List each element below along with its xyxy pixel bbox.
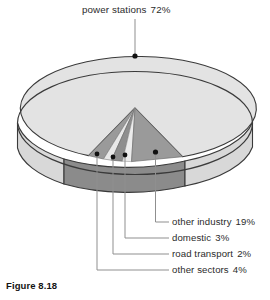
label-other-industry: other industry19%: [172, 216, 255, 227]
label-other-industry-name: other industry: [172, 216, 232, 227]
dot-road-transport: [111, 155, 116, 160]
figure-caption: Figure 8.18: [6, 280, 57, 291]
dot-other-sectors: [95, 152, 100, 157]
dot-power-stations: [132, 53, 137, 58]
label-other-sectors-value: 4%: [233, 264, 247, 275]
label-power-stations-value: 72%: [151, 4, 171, 15]
label-road-transport-value: 2%: [237, 248, 251, 259]
label-road-transport-name: road transport: [172, 248, 233, 259]
label-domestic: domestic3%: [172, 232, 229, 243]
dot-domestic: [123, 153, 128, 158]
label-other-industry-value: 19%: [236, 216, 256, 227]
label-power-stations: power stations72%: [82, 4, 171, 15]
label-domestic-value: 3%: [215, 232, 229, 243]
label-domestic-name: domestic: [172, 232, 211, 243]
label-other-sectors-name: other sectors: [172, 264, 229, 275]
dot-other-industry: [153, 149, 158, 154]
label-other-sectors: other sectors4%: [172, 264, 247, 275]
label-power-stations-name: power stations: [82, 4, 147, 15]
label-road-transport: road transport2%: [172, 248, 251, 259]
figure-container: power stations72% other industry19% dome…: [0, 0, 270, 300]
